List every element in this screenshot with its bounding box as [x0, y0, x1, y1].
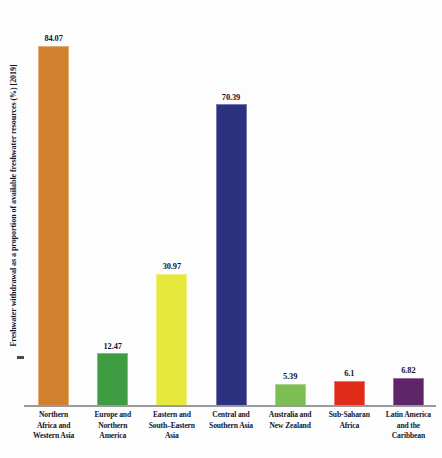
y-axis-title-label: Freshwater withdrawal as a proportion of…: [9, 64, 18, 346]
category-label-line: Southern Asia: [201, 421, 260, 432]
category-label-line: Africa: [320, 421, 379, 432]
bar-rect[interactable]: [275, 384, 306, 407]
bar-value-label: 30.97: [163, 263, 181, 271]
bar-group[interactable]: 6.82: [393, 367, 424, 407]
y-axis-title: Freshwater withdrawal as a proportion of…: [0, 0, 26, 410]
bar-group[interactable]: 84.07: [38, 35, 69, 407]
bar-group[interactable]: 70.39: [216, 94, 247, 407]
x-axis-category-label: Sub-SaharanAfrica: [320, 410, 379, 431]
category-label-line: Asia: [142, 431, 201, 442]
bar-rect[interactable]: [334, 381, 365, 407]
x-axis-category-labels: NorthernAfrica andWestern AsiaEurope and…: [24, 410, 438, 454]
footer-cutoff-text: [26, 451, 430, 456]
category-label-line: Australia and: [261, 410, 320, 421]
bar-value-label: 6.1: [344, 370, 354, 378]
bar-group[interactable]: 5.39: [275, 373, 306, 407]
x-axis-category-label: Central andSouthern Asia: [201, 410, 260, 431]
category-label-line: Eastern and: [142, 410, 201, 421]
x-axis-category-label: Eastern andSouth–EasternAsia: [142, 410, 201, 442]
bar-value-label: 84.07: [44, 35, 62, 43]
bar-rect[interactable]: [97, 353, 128, 407]
bar-value-label: 12.47: [104, 343, 122, 351]
x-axis-line: [24, 405, 436, 407]
category-label-line: Africa and: [24, 421, 83, 432]
category-label-line: South–Eastern: [142, 421, 201, 432]
plot-area: 84.0712.4730.9770.395.396.16.82: [24, 8, 438, 407]
bar-value-label: 70.39: [222, 94, 240, 102]
category-label-line: Europe and: [83, 410, 142, 421]
y-axis-tick-mark: [17, 356, 24, 359]
x-axis-category-label: Latin Americaand theCaribbean: [379, 410, 438, 442]
category-label-line: and the: [379, 421, 438, 432]
category-label-line: Northern: [83, 421, 142, 432]
bar-rect[interactable]: [393, 378, 424, 407]
bar-group[interactable]: 30.97: [156, 263, 187, 407]
category-label-line: America: [83, 431, 142, 442]
bar-rect[interactable]: [156, 274, 187, 407]
x-axis-category-label: Australia andNew Zealand: [261, 410, 320, 431]
bar-rect[interactable]: [38, 46, 69, 408]
bar-rect[interactable]: [216, 104, 247, 407]
category-label-line: Western Asia: [24, 431, 83, 442]
bar-value-label: 5.39: [283, 373, 297, 381]
x-axis-category-label: NorthernAfrica andWestern Asia: [24, 410, 83, 442]
category-label-line: Sub-Saharan: [320, 410, 379, 421]
bar-group[interactable]: 12.47: [97, 343, 128, 407]
category-label-line: Latin America: [379, 410, 438, 421]
category-label-line: Central and: [201, 410, 260, 421]
category-label-line: Northern: [24, 410, 83, 421]
bar-chart: Freshwater withdrawal as a proportion of…: [0, 0, 442, 458]
x-axis-category-label: Europe andNorthernAmerica: [83, 410, 142, 442]
bar-group[interactable]: 6.1: [334, 370, 365, 407]
bar-value-label: 6.82: [401, 367, 415, 375]
category-label-line: Caribbean: [379, 431, 438, 442]
category-label-line: New Zealand: [261, 421, 320, 432]
